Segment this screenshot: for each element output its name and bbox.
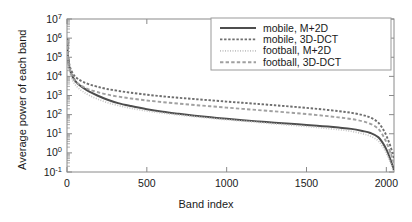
plot-canvas: 10-1100101102103104105106107 05001000150… <box>0 0 412 222</box>
x-tick-label: 500 <box>138 177 156 189</box>
x-tick-label: 0 <box>64 177 70 189</box>
y-tick-label: 106 <box>46 31 62 44</box>
x-tick-label: 1500 <box>295 177 319 189</box>
x-axis-tick-labels: 0500100015002000 <box>64 177 398 189</box>
y-tick-label: 107 <box>46 12 62 25</box>
legend-label-0: mobile, M+2D <box>263 22 328 34</box>
x-tick-label: 1000 <box>215 177 239 189</box>
y-tick-label: 10-1 <box>44 165 62 178</box>
y-tick-label: 105 <box>46 50 62 63</box>
x-tick-label: 2000 <box>375 177 399 189</box>
y-tick-label: 103 <box>46 88 62 101</box>
y-tick-label: 100 <box>46 145 62 158</box>
legend: mobile, M+2Dmobile, 3D-DCTfootball, M+2D… <box>211 18 391 70</box>
y-tick-label: 101 <box>46 126 62 139</box>
y-tick-label: 104 <box>46 69 62 82</box>
y-axis-title: Average power of each band <box>16 30 28 170</box>
chart-figure: Average power of each band Band index 10… <box>0 0 412 222</box>
legend-label-2: football, M+2D <box>263 44 331 56</box>
legend-label-3: football, 3D-DCT <box>263 56 342 68</box>
x-axis-title: Band index <box>0 198 412 210</box>
y-tick-label: 102 <box>46 107 62 120</box>
y-axis-tick-labels: 10-1100101102103104105106107 <box>44 12 62 178</box>
legend-label-1: mobile, 3D-DCT <box>263 33 339 45</box>
